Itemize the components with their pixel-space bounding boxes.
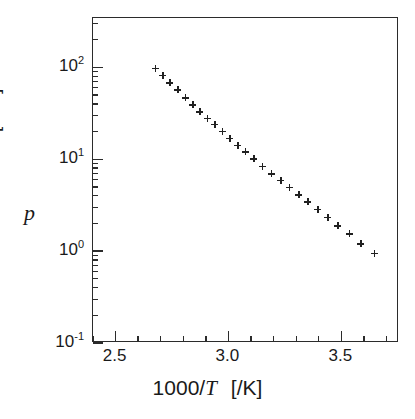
y-tick-minor — [93, 315, 98, 316]
y-tick-minor — [93, 186, 98, 187]
data-point — [268, 170, 275, 177]
vapor-pressure-chart: [kPa] p 10210110010-1 2.53.03.5 1000/T[/… — [0, 0, 415, 419]
x-axis-title-unit: [/K] — [231, 376, 263, 399]
data-point — [219, 128, 226, 135]
data-point — [211, 121, 218, 128]
plot-area — [92, 17, 398, 342]
y-tick-minor — [93, 94, 98, 95]
y-tick-label: 101 — [0, 149, 84, 166]
data-point — [259, 163, 266, 170]
y-tick-minor — [93, 103, 98, 104]
data-point — [346, 230, 353, 237]
y-tick-minor — [93, 255, 98, 256]
y-tick-minor — [93, 173, 98, 174]
y-tick-major — [93, 250, 103, 251]
x-tick-minor — [363, 336, 364, 341]
x-tick-major — [341, 331, 342, 341]
y-tick-minor — [93, 179, 98, 180]
y-tick-minor — [93, 167, 98, 168]
y-tick-minor — [93, 287, 98, 288]
data-point — [286, 184, 293, 191]
data-point — [314, 206, 321, 213]
x-tick-minor — [205, 336, 206, 341]
x-axis-title-symbol: T — [205, 376, 217, 400]
y-tick-minor — [93, 87, 98, 88]
x-tick-major — [115, 331, 116, 341]
y-tick-label-exponent: 1 — [78, 147, 84, 159]
x-tick-label: 3.5 — [310, 347, 370, 364]
x-tick-minor — [92, 336, 93, 341]
x-tick-major — [228, 331, 229, 341]
data-point — [159, 72, 166, 79]
x-tick-minor — [386, 336, 387, 341]
data-point — [174, 86, 181, 93]
data-point — [204, 115, 211, 122]
y-tick-label: 10-1 — [0, 333, 84, 350]
y-tick-major — [93, 342, 103, 343]
data-point — [234, 142, 241, 149]
data-point — [166, 79, 173, 86]
y-tick-minor — [93, 71, 98, 72]
x-tick-minor — [137, 336, 138, 341]
y-tick-minor — [93, 163, 98, 164]
y-axis-unit-label: [kPa] — [0, 92, 4, 132]
data-point — [196, 108, 203, 115]
data-point — [277, 177, 284, 184]
x-tick-minor — [318, 336, 319, 341]
x-axis-title-prefix: 1000/ — [153, 376, 206, 399]
data-point — [334, 222, 341, 229]
data-point — [324, 214, 331, 221]
y-tick-minor — [93, 259, 98, 260]
data-point — [182, 94, 189, 101]
data-point — [189, 101, 196, 108]
y-axis-symbol-label: p — [24, 200, 35, 226]
x-tick-minor — [296, 336, 297, 341]
y-tick-minor — [93, 265, 98, 266]
y-tick-minor — [93, 131, 98, 132]
data-point — [250, 155, 257, 162]
x-tick-minor — [250, 336, 251, 341]
y-tick-minor — [93, 223, 98, 224]
y-tick-major — [93, 67, 103, 68]
y-tick-label-exponent: 2 — [78, 55, 84, 67]
data-point — [242, 148, 249, 155]
data-point — [295, 191, 302, 198]
y-tick-minor — [93, 271, 98, 272]
x-axis-title: 1000/T[/K] — [0, 376, 415, 401]
y-tick-minor — [93, 278, 98, 279]
x-tick-label: 2.5 — [85, 347, 145, 364]
y-tick-minor — [93, 23, 98, 24]
y-tick-minor — [93, 115, 98, 116]
y-tick-major — [93, 159, 103, 160]
x-tick-label: 3.0 — [197, 347, 257, 364]
x-tick-minor — [183, 336, 184, 341]
y-tick-label: 102 — [0, 57, 84, 74]
y-tick-label-exponent: 0 — [78, 238, 84, 250]
y-tick-minor — [93, 81, 98, 82]
y-tick-minor — [93, 195, 98, 196]
x-tick-minor — [160, 336, 161, 341]
y-tick-label-exponent: -1 — [74, 330, 84, 342]
data-point — [357, 240, 364, 247]
y-tick-minor — [93, 39, 98, 40]
data-point — [304, 198, 311, 205]
y-tick-minor — [93, 299, 98, 300]
x-tick-minor — [273, 336, 274, 341]
y-tick-minor — [93, 76, 98, 77]
y-tick-minor — [93, 207, 98, 208]
data-point — [371, 250, 378, 257]
data-point — [226, 135, 233, 142]
data-point — [152, 65, 159, 72]
y-tick-label: 100 — [0, 241, 84, 258]
